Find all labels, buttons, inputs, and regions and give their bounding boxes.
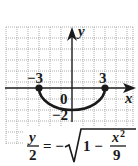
origin-label: 0: [60, 92, 68, 107]
equation-graphic: y 2 = − 1 − x 2 9: [24, 127, 136, 165]
frac-denominator: 9: [113, 147, 121, 163]
lhs-numerator: y: [27, 129, 36, 145]
y-axis: [67, 27, 77, 122]
tick-label-y-neg2: −2: [52, 108, 68, 123]
ellipse-graph-figure: y x −3 3 0 −2 y 2 = − 1 − x 2 9: [0, 0, 138, 166]
frac-numerator: x: [111, 130, 119, 145]
frac-exponent: 2: [120, 128, 125, 139]
x-axis-label: x: [125, 91, 133, 106]
tick-label-x-3: 3: [99, 71, 107, 86]
y-axis-label: y: [78, 24, 85, 39]
radicand-lead: 1 −: [83, 138, 103, 154]
equals-minus: = −: [43, 138, 64, 154]
lhs-denominator: 2: [29, 147, 37, 163]
equation: y 2 = − 1 − x 2 9: [24, 127, 136, 165]
tick-label-x-neg3: −3: [27, 71, 43, 86]
